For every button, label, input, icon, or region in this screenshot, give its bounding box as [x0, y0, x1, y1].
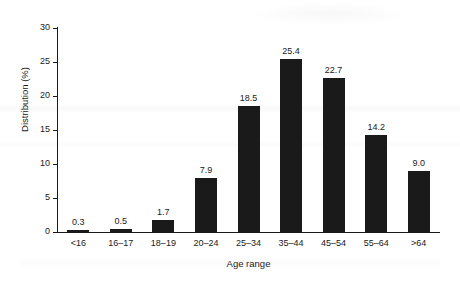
bar-value-label: 9.0 — [399, 158, 439, 168]
bar — [323, 78, 345, 232]
y-axis-tick-label: 10 — [20, 158, 50, 168]
bar-value-label: 14.2 — [356, 122, 396, 132]
bar-value-label: 25.4 — [271, 46, 311, 56]
bar-value-label: 22.7 — [314, 65, 354, 75]
x-axis-line — [57, 232, 440, 233]
bar-value-label: 0.5 — [101, 216, 141, 226]
x-axis-tick-label: 25–34 — [227, 238, 271, 248]
bar-value-label: 18.5 — [229, 93, 269, 103]
x-axis-tick-label: 16–17 — [99, 238, 143, 248]
bar — [365, 135, 387, 232]
bar-value-label: 7.9 — [186, 165, 226, 175]
bar — [110, 229, 132, 232]
x-axis-tick-label: >64 — [397, 238, 441, 248]
x-axis-title: Age range — [57, 258, 440, 269]
scan-artifact — [0, 104, 460, 113]
x-axis-tick-label: 35–44 — [269, 238, 313, 248]
y-axis-tick-label: 30 — [20, 22, 50, 32]
x-axis-tick-label: 18–19 — [141, 238, 185, 248]
bar — [67, 230, 89, 232]
bar-value-label: 1.7 — [143, 207, 183, 217]
x-axis-tick-label: 55–64 — [354, 238, 398, 248]
x-axis-tick-label: <16 — [56, 238, 100, 248]
scan-artifact — [250, 2, 410, 26]
bar — [408, 171, 430, 232]
bar — [152, 220, 174, 232]
bar-value-label: 0.3 — [58, 217, 98, 227]
y-axis-tick — [53, 96, 57, 97]
y-axis-tick — [53, 28, 57, 29]
y-axis-tick — [53, 62, 57, 63]
y-axis-title: Distribution (%) — [19, 40, 30, 160]
y-axis-tick-label: 0 — [20, 226, 50, 236]
y-axis-tick — [53, 130, 57, 131]
x-axis-tick-label: 20–24 — [184, 238, 228, 248]
bar — [195, 178, 217, 232]
scan-artifact — [0, 141, 460, 148]
bar — [238, 106, 260, 232]
y-axis-tick — [53, 164, 57, 165]
chart-screenshot: 051015202530 Distribution (%) Age range … — [0, 0, 460, 282]
y-axis-tick — [53, 198, 57, 199]
x-axis-tick-label: 45–54 — [312, 238, 356, 248]
y-axis-tick-label: 5 — [20, 192, 50, 202]
y-axis-tick — [53, 232, 57, 233]
bar — [280, 59, 302, 232]
y-axis-line — [57, 27, 58, 233]
